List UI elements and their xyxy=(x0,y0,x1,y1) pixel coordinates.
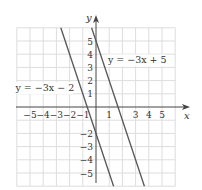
x-tick-label: 1 xyxy=(106,110,112,120)
coordinate-plane: x y −5−4−3−2−1134554321−2−3−4−5 y = −3x … xyxy=(0,0,202,190)
y-tick-label: 2 xyxy=(87,76,93,86)
y-tick-label: −2 xyxy=(80,129,93,139)
y-tick-label: 1 xyxy=(87,89,93,99)
axes: x y xyxy=(16,12,190,183)
x-tick-label: 5 xyxy=(159,110,165,120)
y-tick-label: −3 xyxy=(80,142,94,152)
y-tick-label: 4 xyxy=(87,50,93,60)
x-tick-label: −3 xyxy=(50,110,64,120)
equation-labels: y = −3x + 5y = −3x − 2 xyxy=(14,54,166,94)
x-tick-label: −4 xyxy=(37,110,51,120)
equation-label: y = −3x − 2 xyxy=(14,82,74,93)
y-tick-label: 5 xyxy=(87,37,93,47)
y-tick-label: 3 xyxy=(87,63,93,73)
x-tick-label: −5 xyxy=(23,110,37,120)
equation-label: y = −3x + 5 xyxy=(107,54,167,65)
x-tick-label: −2 xyxy=(63,110,76,120)
y-axis-label: y xyxy=(85,12,92,23)
x-axis-label: x xyxy=(184,110,190,121)
x-tick-label: 4 xyxy=(146,110,152,120)
y-tick-label: −5 xyxy=(80,169,94,179)
x-tick-label: 3 xyxy=(133,110,139,120)
x-tick-label: −1 xyxy=(76,110,89,120)
y-tick-label: −4 xyxy=(80,155,94,165)
